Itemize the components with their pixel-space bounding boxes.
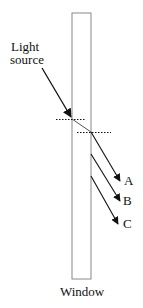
ray-a-label: A <box>124 173 134 188</box>
window-label: Window <box>60 284 105 299</box>
incident-ray-arrow <box>42 68 71 117</box>
window-pane <box>72 13 91 279</box>
light-source-label-line2: source <box>10 52 44 67</box>
refraction-diagram: Light source A B C Window <box>0 0 143 308</box>
ray-a-arrow <box>91 132 120 181</box>
ray-c-label: C <box>123 216 132 231</box>
ray-b-label: B <box>123 193 132 208</box>
ray-c-arrow <box>91 176 118 224</box>
ray-b-arrow <box>91 154 120 201</box>
